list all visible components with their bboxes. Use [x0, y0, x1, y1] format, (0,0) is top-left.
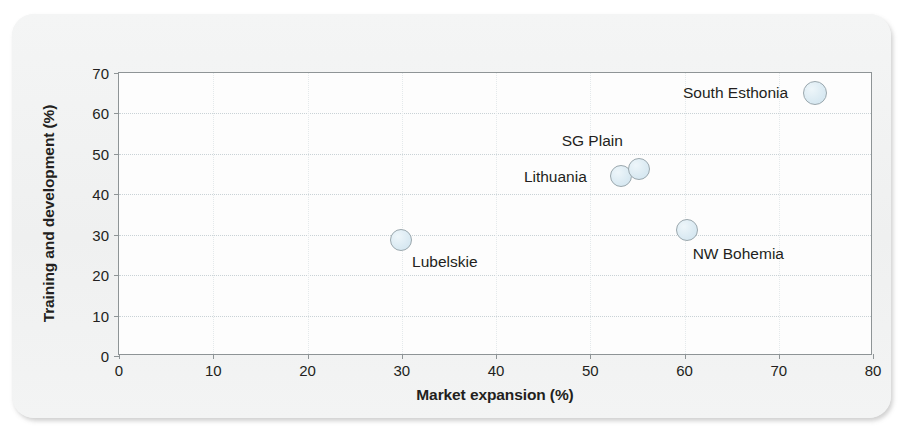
- data-point-label: South Esthonia: [683, 84, 788, 102]
- y-tick-label: 70: [92, 65, 109, 82]
- data-point-marker[interactable]: [803, 81, 827, 105]
- gridline-vertical: [496, 73, 497, 354]
- x-axis-title: Market expansion (%): [118, 386, 872, 404]
- y-tick-label: 40: [92, 186, 109, 203]
- data-point-label: Lubelskie: [412, 253, 478, 271]
- data-point-label: Lithuania: [524, 168, 587, 186]
- gridline-vertical: [779, 73, 780, 354]
- y-tick-label: 0: [101, 348, 109, 365]
- y-tick-label: 20: [92, 267, 109, 284]
- gridline-horizontal: [119, 275, 871, 276]
- y-tick-label: 10: [92, 307, 109, 324]
- gridline-horizontal: [119, 113, 871, 114]
- data-point-marker[interactable]: [390, 229, 412, 251]
- x-tick-mark: [308, 354, 309, 359]
- x-tick-mark: [873, 354, 874, 359]
- x-tick-label: 0: [115, 362, 123, 379]
- x-tick-label: 50: [582, 362, 599, 379]
- x-tick-label: 10: [205, 362, 222, 379]
- y-tick-label: 60: [92, 105, 109, 122]
- x-tick-label: 80: [865, 362, 882, 379]
- data-point-marker[interactable]: [676, 219, 698, 241]
- gridline-horizontal: [119, 316, 871, 317]
- plot-area: 010203040506070 01020304050607080 Lubels…: [118, 72, 872, 355]
- x-tick-mark: [779, 354, 780, 359]
- gridline-vertical: [685, 73, 686, 354]
- data-point-marker[interactable]: [628, 158, 650, 180]
- y-axis-title: Training and development (%): [38, 72, 60, 355]
- x-tick-mark: [685, 354, 686, 359]
- y-tick-label: 50: [92, 145, 109, 162]
- gridline-vertical: [213, 73, 214, 354]
- chart-card: Training and development (%) 01020304050…: [12, 14, 891, 418]
- gridline-horizontal: [119, 154, 871, 155]
- x-tick-label: 40: [488, 362, 505, 379]
- y-tick-mark: [114, 113, 119, 114]
- x-tick-mark: [213, 354, 214, 359]
- x-tick-label: 30: [393, 362, 410, 379]
- data-point-label: NW Bohemia: [693, 245, 784, 263]
- gridline-horizontal: [119, 194, 871, 195]
- x-tick-mark: [496, 354, 497, 359]
- y-tick-mark: [114, 154, 119, 155]
- y-tick-mark: [114, 235, 119, 236]
- x-tick-mark: [402, 354, 403, 359]
- chart-card-surface: Training and development (%) 01020304050…: [12, 14, 891, 418]
- x-tick-label: 70: [770, 362, 787, 379]
- gridline-horizontal: [119, 235, 871, 236]
- gridline-vertical: [402, 73, 403, 354]
- data-point-label: SG Plain: [562, 132, 623, 150]
- y-tick-label: 30: [92, 226, 109, 243]
- gridline-vertical: [590, 73, 591, 354]
- y-tick-mark: [114, 194, 119, 195]
- y-tick-mark: [114, 73, 119, 74]
- y-tick-mark: [114, 275, 119, 276]
- x-tick-label: 20: [299, 362, 316, 379]
- x-tick-mark: [590, 354, 591, 359]
- x-tick-mark: [119, 354, 120, 359]
- y-tick-mark: [114, 316, 119, 317]
- gridline-vertical: [308, 73, 309, 354]
- x-tick-label: 60: [676, 362, 693, 379]
